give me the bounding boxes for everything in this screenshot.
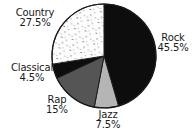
pie-label-classical: Classical 4.5% [0,63,65,83]
pie-label-country-percent: 27.5% [2,18,68,28]
pie-label-rap: Rap 15% [37,95,77,115]
pie-label-rap-percent: 15% [37,105,77,115]
pie-chart-figure: Country 27.5% Rock 45.5% Classical 4.5% … [0,0,193,139]
pie-label-jazz-percent: 7.5% [88,120,128,130]
pie-label-country: Country 27.5% [2,8,68,28]
pie-label-rock: Rock 45.5% [152,33,193,53]
pie-label-classical-percent: 4.5% [0,73,65,83]
pie-label-jazz: Jazz 7.5% [88,110,128,130]
pie-label-rock-percent: 45.5% [152,43,193,53]
